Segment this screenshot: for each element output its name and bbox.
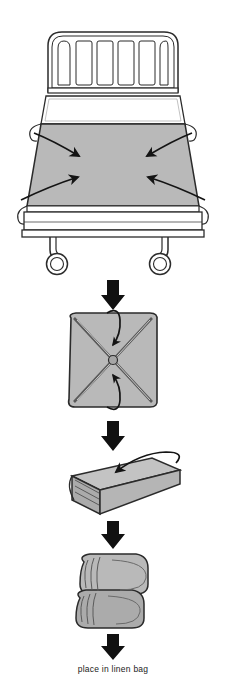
headboard-bar-1 — [58, 41, 70, 85]
bed-headboard — [48, 32, 178, 93]
diagram-canvas: place in linen bag — [0, 0, 226, 682]
caster-right-wheel-inner — [154, 258, 167, 271]
flow-arrow-2 — [101, 421, 125, 451]
step-bundled-square — [69, 311, 158, 410]
flow-arrow-1 — [101, 280, 125, 310]
headboard-bar-4 — [118, 41, 134, 85]
caption-label: place in linen bag — [78, 664, 149, 674]
soiled-sheet — [27, 124, 199, 206]
step-folded-rectangle — [69, 452, 180, 514]
headboard-bar-2 — [76, 41, 92, 85]
step-bed — [18, 32, 209, 275]
headboard-cross-rail — [48, 88, 178, 93]
caster-left-leg-inner — [56, 237, 61, 255]
caster-right-leg-inner — [157, 237, 162, 255]
caster-left-wheel-inner — [51, 258, 64, 271]
headboard-bar-3 — [97, 41, 113, 85]
flow-arrow-1-shape — [101, 280, 125, 310]
headboard-bar-5 — [139, 41, 155, 85]
bed-caster-left — [47, 237, 68, 275]
instruction-diagram: place in linen bag — [0, 0, 226, 682]
flow-arrow-2-shape — [101, 421, 125, 451]
bed-caster-right — [150, 237, 171, 275]
flow-arrow-3 — [101, 521, 125, 549]
flow-arrow-4 — [101, 634, 125, 660]
bed-frame-rail-upper — [24, 212, 202, 230]
step-final-bundle — [76, 554, 148, 628]
bed-frame-rail-lower — [22, 230, 204, 237]
flow-arrow-4-shape — [101, 634, 125, 660]
bundle-center-knot — [109, 356, 118, 365]
headboard-bar-6 — [160, 41, 168, 85]
flow-arrow-3-shape — [101, 521, 125, 549]
bed-pillow-inner — [45, 99, 181, 121]
mattress-edge-band — [27, 206, 199, 212]
